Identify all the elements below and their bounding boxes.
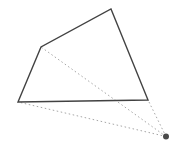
external-point xyxy=(163,134,169,140)
dotted-sightline xyxy=(148,100,166,137)
dotted-sightline xyxy=(18,102,166,137)
geometry-diagram xyxy=(0,0,180,155)
dotted-sightline xyxy=(41,47,166,137)
polygon-outline xyxy=(18,9,148,102)
diagram-svg xyxy=(0,0,180,155)
